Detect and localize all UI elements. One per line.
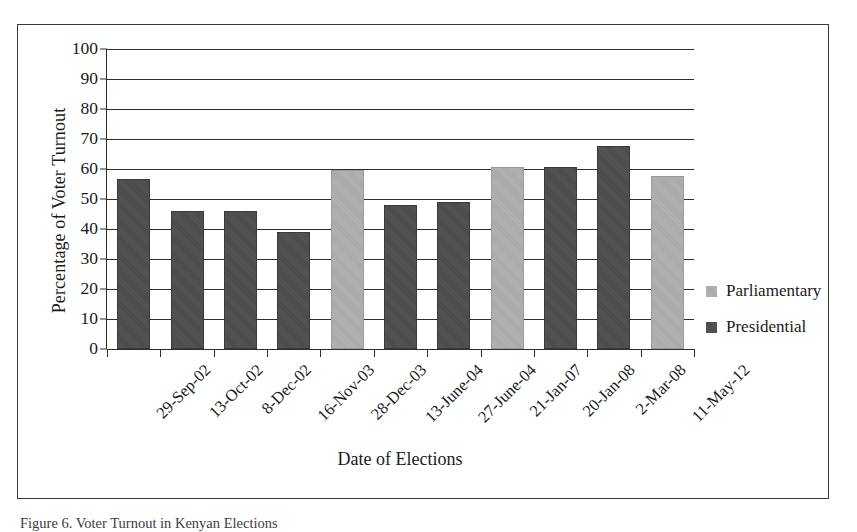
x-tick-mark	[641, 349, 642, 357]
y-tick-mark-30	[100, 259, 107, 260]
bar-slot	[267, 49, 320, 349]
bar-slot	[641, 49, 694, 349]
x-tick-mark	[320, 349, 321, 357]
x-tick-label-2-mar-08: 2-Mar-08	[632, 361, 689, 418]
chart-legend: ParliamentaryPresidential	[706, 281, 826, 353]
y-tick-mark-60	[100, 169, 107, 170]
x-tick-mark	[214, 349, 215, 357]
y-tick-label-50: 50	[81, 190, 99, 208]
legend-swatch-presidential-icon	[706, 322, 717, 333]
bar-slot	[107, 49, 160, 349]
bar-11-may-12[interactable]	[651, 176, 684, 349]
y-tick-label-80: 80	[81, 100, 99, 118]
x-tick-label-28-dec-03: 28-Dec-03	[367, 361, 429, 423]
legend-swatch-parliamentary-icon	[706, 286, 717, 297]
y-tick-mark-20	[100, 289, 107, 290]
bar-20-jan-08[interactable]	[544, 167, 577, 349]
bar-13-june-04[interactable]	[384, 205, 417, 350]
y-tick-label-70: 70	[81, 130, 99, 148]
x-tick-mark	[481, 349, 482, 357]
y-tick-label-20: 20	[81, 280, 99, 298]
x-tick-label-11-may-12: 11-May-12	[689, 361, 753, 425]
x-tick-mark	[694, 349, 695, 357]
x-axis-title: Date of Elections	[106, 449, 694, 470]
x-tick-mark	[107, 349, 108, 357]
bar-slot	[214, 49, 267, 349]
y-tick-mark-40	[100, 229, 107, 230]
bar-2-mar-08[interactable]	[597, 146, 630, 349]
bar-13-oct-02[interactable]	[171, 211, 204, 350]
y-tick-label-30: 30	[81, 250, 99, 268]
y-tick-mark-100	[100, 49, 107, 50]
bar-28-dec-03[interactable]	[331, 170, 364, 349]
figure-frame: Percentage of Voter Turnout 100908070605…	[17, 24, 829, 499]
bar-8-dec-02[interactable]	[224, 211, 257, 350]
bar-slot	[320, 49, 373, 349]
y-tick-mark-80	[100, 109, 107, 110]
y-tick-label-90: 90	[81, 70, 99, 88]
bar-slot	[427, 49, 480, 349]
legend-label: Presidential	[726, 317, 806, 337]
x-tick-label-29-sep-02: 29-Sep-02	[153, 361, 214, 422]
x-tick-mark	[160, 349, 161, 357]
legend-item-presidential[interactable]: Presidential	[706, 317, 826, 337]
x-tick-label-13-oct-02: 13-Oct-02	[206, 361, 266, 421]
bar-21-jan-07[interactable]	[491, 167, 524, 349]
x-tick-mark	[534, 349, 535, 357]
legend-label: Parliamentary	[726, 281, 821, 301]
y-tick-mark-90	[100, 79, 107, 80]
bar-slot	[160, 49, 213, 349]
x-tick-label-20-jan-08: 20-Jan-08	[580, 361, 639, 420]
bar-group	[107, 49, 694, 349]
y-tick-mark-50	[100, 199, 107, 200]
bar-16-nov-03[interactable]	[277, 232, 310, 350]
y-tick-mark-70	[100, 139, 107, 140]
x-tick-mark	[427, 349, 428, 357]
bar-27-june-04[interactable]	[437, 202, 470, 350]
figure-caption: Figure 6. Voter Turnout in Kenyan Electi…	[20, 515, 820, 532]
x-tick-label-16-nov-03: 16-Nov-03	[314, 361, 377, 424]
y-axis-title: Percentage of Voter Turnout	[49, 66, 70, 356]
bar-29-sep-02[interactable]	[117, 179, 150, 349]
x-axis-ticks	[107, 349, 694, 357]
bar-slot	[374, 49, 427, 349]
y-tick-label-10: 10	[81, 310, 99, 328]
y-tick-label-100: 100	[72, 40, 98, 58]
y-tick-mark-10	[100, 319, 107, 320]
x-tick-mark	[374, 349, 375, 357]
bar-slot	[481, 49, 534, 349]
legend-item-parliamentary[interactable]: Parliamentary	[706, 281, 826, 301]
bar-slot	[534, 49, 587, 349]
x-tick-label-8-dec-02: 8-Dec-02	[258, 361, 314, 417]
y-tick-label-0: 0	[89, 340, 98, 358]
y-tick-label-60: 60	[81, 160, 99, 178]
plot-area: 1009080706050403020100	[106, 49, 694, 349]
y-tick-label-40: 40	[81, 220, 99, 238]
x-tick-mark	[267, 349, 268, 357]
x-tick-mark	[587, 349, 588, 357]
bar-slot	[587, 49, 640, 349]
y-tick-mark-0	[100, 349, 107, 350]
plot-inner: 1009080706050403020100	[106, 49, 694, 349]
